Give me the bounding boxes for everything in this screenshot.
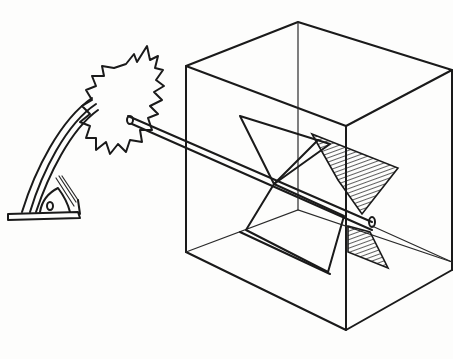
sketch-canvas: Hand-drawn sketch of a paddle-wheel mech…: [0, 0, 453, 359]
paddle-wheel-sketch: [0, 0, 453, 359]
stand: [8, 98, 98, 220]
paddles: [240, 116, 398, 274]
shaft: [127, 116, 452, 262]
box-frame: [186, 22, 452, 330]
serrated-disc: [80, 46, 164, 154]
